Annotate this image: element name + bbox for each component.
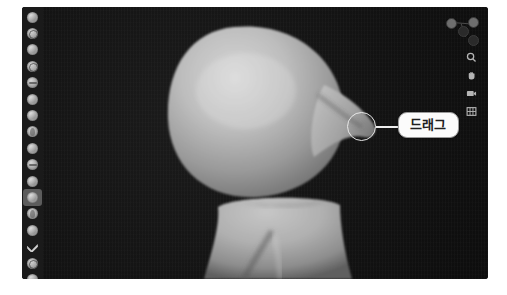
tool-face-set[interactable] bbox=[23, 271, 42, 279]
tool-mask[interactable] bbox=[23, 255, 42, 271]
tool-flatten[interactable] bbox=[23, 157, 42, 173]
gizmo-axis-ball-x-neg[interactable] bbox=[446, 18, 457, 29]
tool-thumb[interactable] bbox=[23, 206, 42, 222]
tool-clay[interactable] bbox=[23, 42, 42, 58]
tool-layer[interactable] bbox=[23, 75, 42, 91]
brush-snake-hook-icon bbox=[27, 192, 38, 203]
tool-fill[interactable] bbox=[23, 173, 42, 189]
gizmo-axis-ball-x-pos[interactable] bbox=[468, 17, 479, 28]
brush-face-set-icon bbox=[27, 274, 38, 279]
tool-crease[interactable] bbox=[23, 124, 42, 140]
brush-grab-icon bbox=[27, 241, 38, 252]
brush-inflate-icon bbox=[27, 94, 38, 105]
tool-pinch[interactable] bbox=[23, 222, 42, 238]
magnifier-icon[interactable] bbox=[465, 51, 478, 64]
gizmo-axis-ball-y[interactable] bbox=[458, 26, 469, 37]
brush-smooth-icon bbox=[27, 143, 38, 154]
gizmo-axis-ball-z[interactable] bbox=[468, 35, 479, 46]
grid-icon[interactable] bbox=[465, 105, 478, 118]
brush-pinch-icon bbox=[27, 225, 38, 236]
camera-icon[interactable] bbox=[465, 87, 478, 100]
brush-flatten-icon bbox=[27, 159, 38, 170]
tool-draw[interactable] bbox=[23, 9, 42, 25]
viewport-background bbox=[22, 7, 488, 279]
brush-crease-icon bbox=[27, 126, 38, 137]
view-orientation-gizmo[interactable] bbox=[444, 12, 482, 50]
tool-grab[interactable] bbox=[23, 238, 42, 254]
brush-draw-sharp-icon bbox=[27, 28, 38, 39]
tool-inflate[interactable] bbox=[23, 91, 42, 107]
brush-clay-strips-icon bbox=[27, 61, 38, 72]
tool-snake-hook[interactable] bbox=[23, 189, 42, 205]
tool-draw-sharp[interactable] bbox=[23, 25, 42, 41]
brush-clay-icon bbox=[27, 44, 38, 55]
brush-blob-icon bbox=[27, 110, 38, 121]
sculpt-tool-shelf[interactable] bbox=[22, 7, 43, 279]
viewport-view-tools[interactable] bbox=[464, 51, 479, 118]
tool-smooth[interactable] bbox=[23, 140, 42, 156]
blender-3d-viewport[interactable]: 드래그 bbox=[22, 7, 488, 279]
brush-draw-icon bbox=[27, 12, 38, 23]
brush-layer-icon bbox=[27, 77, 38, 88]
brush-mask-icon bbox=[27, 258, 38, 269]
tool-blob[interactable] bbox=[23, 107, 42, 123]
tool-clay-strips[interactable] bbox=[23, 58, 42, 74]
brush-fill-icon bbox=[27, 176, 38, 187]
brush-thumb-icon bbox=[27, 208, 38, 219]
hand-icon[interactable] bbox=[465, 69, 478, 82]
